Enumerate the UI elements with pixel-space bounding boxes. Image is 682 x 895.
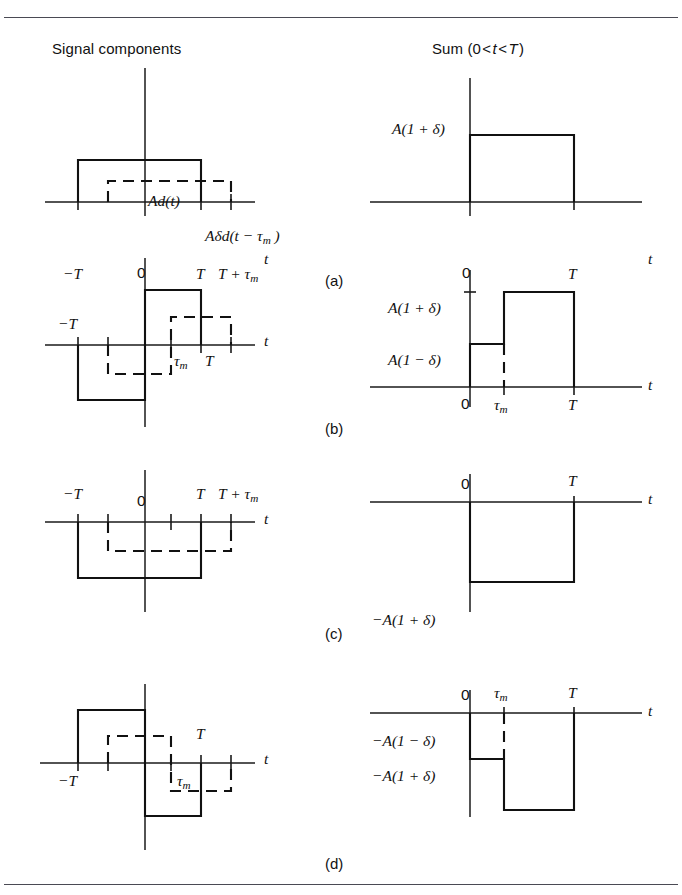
panel-d-tick-taum: τm (177, 772, 191, 791)
sum-title-text: Sum (0 < t < T ) (432, 40, 524, 57)
panel-d-left-axis-label: t (264, 750, 268, 768)
panel-c-right-tick-zero: 0 (461, 475, 470, 493)
figure-sheet: Signal components Sum (0 < t < T ) Ad(t)… (0, 0, 682, 895)
panel-d-right-tick-T: T (568, 684, 577, 702)
panel-label-c: (c) (325, 625, 343, 642)
panel-label-d: (d) (325, 855, 343, 872)
panel-d-right-value-minus: −A(1 − δ) (372, 732, 435, 750)
panel-d-left-chart (0, 672, 330, 857)
panel-c-left-chart (0, 460, 330, 640)
panel-b-right-axis-label: t (648, 376, 652, 394)
panel-c-tick-zero: 0 (137, 492, 146, 510)
panel-d-right-tick-taum: τm (494, 684, 508, 703)
column-title-signal-components: Signal components (52, 40, 181, 57)
panel-b-tick-minusT: −T (58, 315, 77, 333)
panel-b-left-axis-label: t (264, 332, 268, 350)
panel-b-right-tick-taum: τm (494, 396, 508, 415)
panel-d-right-chart (352, 672, 682, 857)
panel-c-tick-T: T (196, 485, 205, 503)
column-title-sum: Sum (0 < t < T ) (432, 40, 524, 57)
panel-a-right-value-label: A(1 + δ) (392, 120, 445, 138)
panel-b-tick-taum: τm (174, 352, 188, 371)
panel-c: −T 0 T T + τm t 0 T t −A(1 + δ) (c) (0, 460, 682, 655)
panel-b-tick-T: T (205, 352, 214, 370)
panel-d-tick-minusT: −T (58, 772, 77, 790)
panel-a: Ad(t) Aδd(t − τm ) −T 0 T T + τm t A(1 +… (0, 60, 682, 245)
panel-d-right-tick-zero: 0 (461, 686, 470, 704)
panel-label-b: (b) (325, 420, 343, 437)
panel-b-right-tick-T: T (568, 396, 577, 414)
panel-a-label-Adelta: Aδd(t − τm ) (205, 227, 280, 246)
figure-bottom-rule (4, 884, 678, 885)
panel-c-tick-T-plus-taum: T + τm (218, 485, 258, 504)
panel-c-right-tick-T: T (568, 472, 577, 490)
panel-a-right-chart (352, 60, 682, 235)
panel-c-right-axis-label: t (648, 490, 652, 508)
panel-d-tick-T: T (196, 725, 205, 743)
panel-b-left-chart (0, 252, 330, 437)
panel-b-right-tick-zero: 0 (461, 395, 470, 413)
panel-d-right-axis-label: t (648, 702, 652, 720)
figure-top-rule (4, 17, 678, 18)
panel-d: −T τm T t 0 τm T t −A(1 − δ) −A(1 + δ) (… (0, 672, 682, 872)
panel-b-right-chart (352, 252, 682, 437)
panel-b: −T τm T t A(1 + δ) A(1 − δ) 0 τm T t (b) (0, 252, 682, 452)
panel-b-right-value-plus: A(1 + δ) (388, 299, 441, 317)
panel-a-label-Ad: Ad(t) (148, 192, 180, 210)
panel-b-right-value-minus: A(1 − δ) (388, 351, 441, 369)
panel-c-left-axis-label: t (264, 510, 268, 528)
panel-c-right-value-label: −A(1 + δ) (372, 611, 435, 629)
panel-d-right-value-plus: −A(1 + δ) (372, 767, 435, 785)
panel-c-tick-minusT: −T (63, 485, 82, 503)
